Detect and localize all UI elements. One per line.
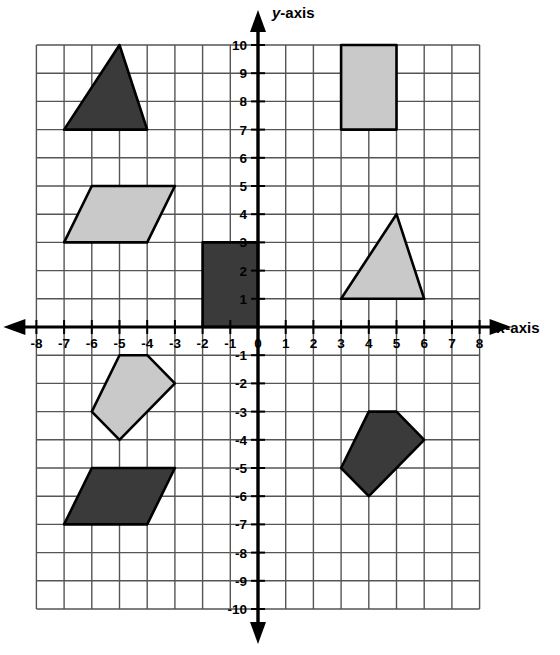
x-tick-label: 5 <box>393 336 401 351</box>
y-tick-label-positive: 10 <box>232 38 247 53</box>
x-tick-label-origin: 0 <box>254 336 262 351</box>
y-tick-label-positive: 5 <box>239 179 247 194</box>
polygon-shapes <box>64 45 424 524</box>
y-tick-label-positive: 3 <box>239 235 247 250</box>
x-tick-label: 2 <box>310 336 318 351</box>
x-tick-label: 1 <box>282 336 290 351</box>
dark-pentagon-quadrant-4 <box>341 412 424 497</box>
x-tick-label: -4 <box>141 336 153 351</box>
x-tick-label: 4 <box>365 336 373 351</box>
y-tick-label-negative: -6 <box>235 489 247 504</box>
x-tick-label: 7 <box>448 336 456 351</box>
y-tick-label-positive: 8 <box>239 94 247 109</box>
x-tick-label: 8 <box>476 336 484 351</box>
y-axis-arrow-down <box>250 622 266 644</box>
y-tick-label-positive: 2 <box>239 264 247 279</box>
dark-triangle-quadrant-2 <box>64 45 147 130</box>
x-tick-label: -5 <box>113 336 125 351</box>
y-tick-label-negative: -1 <box>235 348 247 363</box>
x-tick-label: -3 <box>169 336 181 351</box>
x-tick-label: 6 <box>420 336 428 351</box>
y-tick-label-negative: -8 <box>235 546 247 561</box>
light-rectangle-quadrant-1 <box>341 45 396 130</box>
x-tick-label: -7 <box>58 336 70 351</box>
dark-parallelogram-quadrant-3 <box>64 468 175 524</box>
light-parallelogram-quadrant-2 <box>64 186 175 242</box>
x-tick-label: 3 <box>337 336 345 351</box>
x-tick-label: -8 <box>30 336 42 351</box>
light-triangle-quadrant-1 <box>341 214 424 299</box>
y-tick-label-positive: 4 <box>239 207 247 222</box>
y-tick-label-negative: -5 <box>235 461 247 476</box>
y-tick-label-positive: 1 <box>239 292 247 307</box>
x-tick-label: -6 <box>86 336 98 351</box>
y-tick-label-positive: 9 <box>239 66 247 81</box>
x-tick-label: -2 <box>197 336 209 351</box>
coordinate-plane-svg: -8-7-6-5-4-3-2-101234567810987654321-1-2… <box>0 0 560 655</box>
x-axis-label: x-axis <box>496 319 540 336</box>
dark-rectangle-origin <box>203 242 258 327</box>
y-tick-label-negative: -3 <box>235 405 247 420</box>
y-tick-label-negative: -2 <box>235 376 247 391</box>
y-axis-arrow-up <box>250 10 266 32</box>
y-tick-label-negative: -7 <box>235 517 247 532</box>
y-tick-label-positive: 7 <box>239 123 247 138</box>
y-tick-label-negative: -9 <box>235 574 247 589</box>
y-tick-label-positive: 6 <box>239 151 247 166</box>
y-tick-label-negative: -10 <box>227 602 247 617</box>
coordinate-plane-figure: -8-7-6-5-4-3-2-101234567810987654321-1-2… <box>0 0 560 655</box>
x-axis-arrow-left <box>3 319 25 335</box>
y-axis-label: y-axis <box>271 4 315 21</box>
y-tick-label-negative: -4 <box>235 433 247 448</box>
light-pentagon-quadrant-3 <box>92 355 175 440</box>
